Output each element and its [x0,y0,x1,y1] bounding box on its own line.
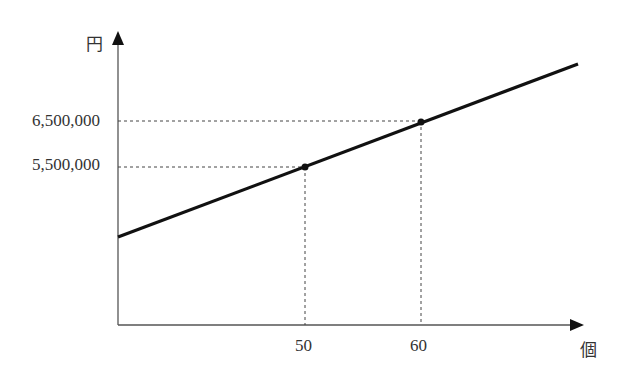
x-tick-60: 60 [410,336,427,356]
x-tick-50: 50 [295,336,312,356]
cost-line [118,64,578,237]
point-60 [418,119,425,126]
y-axis-label: 円 [86,30,103,55]
y-tick-6500000: 6,500,000 [32,111,100,131]
x-axis-arrow-icon [570,319,584,331]
point-50 [302,164,309,171]
y-tick-5500000: 5,500,000 [32,155,100,175]
x-axis-label: 個 [580,336,597,361]
chart-canvas [0,0,624,381]
y-axis-arrow-icon [112,31,124,45]
